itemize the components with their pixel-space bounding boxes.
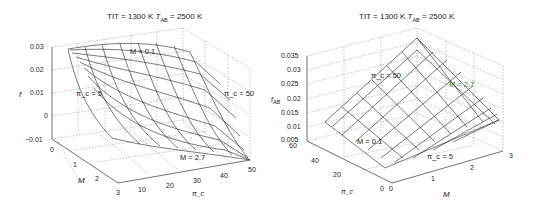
z-axis-label: f [19,90,21,99]
z-axis-label: fAB [271,96,280,105]
y-tick: 2 [95,175,99,182]
annotation-pi-c-5: π_c = 5 [427,152,453,161]
x-axis-label: M [443,190,450,199]
y-tick: 0 [380,185,384,192]
z-tick: 0.025 [281,80,299,87]
x-tick: 10 [138,186,146,193]
y-tick: 60 [289,142,297,149]
z-tick: 0.015 [281,109,299,116]
right-surface-chart: TIT = 1300 K TAB = 2500 K [267,0,534,210]
y-tick: 20 [333,171,341,178]
y-tick: 1 [73,161,77,168]
z-tick: 0.02 [287,95,301,102]
annotation-pi-c-50: π_c = 50 [224,89,254,98]
annotation-pi-c-5: π_c = 5 [76,89,102,98]
x-axis-label: π_c [192,190,204,197]
z-tick: 0.03 [30,43,44,50]
y-axis-label: π_c [341,188,353,195]
z-tick: 0.01 [287,123,301,130]
annotation-m-0-1: M = 0.1 [130,47,155,56]
z-tick: 0.01 [30,89,44,96]
y-axis-label: M [78,176,85,185]
left-surface-chart: TIT = 1300 K TAB = 2500 K [0,0,267,210]
z-tick: 0.02 [30,66,44,73]
y-tick: 3 [116,189,120,196]
x-tick: 20 [166,182,174,189]
x-tick: 40 [220,172,228,179]
x-tick: 50 [248,166,256,173]
x-tick: 2 [470,164,474,171]
annotation-m-2-7: M = 2.7 [449,80,474,89]
x-tick: 1 [431,175,435,182]
z-tick: 0.03 [287,66,301,73]
x-tick: 3 [509,152,513,159]
y-tick: 0 [50,146,54,153]
y-tick: 40 [311,157,319,164]
z-tick: 0 [44,112,48,119]
x-tick: 30 [193,177,201,184]
right-chart-plot [267,0,534,210]
z-tick: 0.035 [281,52,299,59]
annotation-m-2-7: M = 2.7 [180,153,205,162]
annotation-m-0-1: M = 0.1 [357,137,382,146]
annotation-pi-c-50: π_c = 50 [371,71,401,80]
z-tick: −0.01 [25,136,43,143]
x-tick: 0 [389,185,393,192]
